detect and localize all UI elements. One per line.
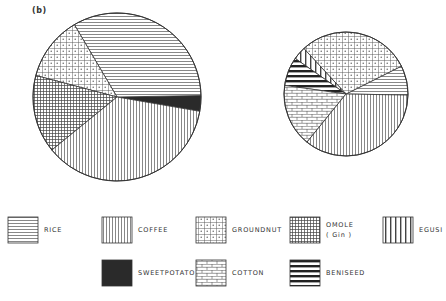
legend-swatch-beniseed xyxy=(290,260,320,286)
panel-label: (b) xyxy=(32,6,47,15)
legend-label-groundnut: GROUNDNUT xyxy=(232,225,282,235)
legend-label-rice: RICE xyxy=(44,225,62,235)
pie-chart-small xyxy=(284,32,408,156)
legend-swatch-cotton xyxy=(196,260,226,286)
legend-swatch-groundnut xyxy=(196,217,226,243)
legend-label-egusi: EGUSI xyxy=(419,225,443,235)
legend-label-cotton: COTTON xyxy=(232,268,264,278)
legend-label-sweetpotato: SWEETPOTATO xyxy=(138,268,195,278)
legend-label-omole-gin: OMOLE ( Gin ) xyxy=(326,220,354,240)
pie-figure xyxy=(0,0,446,301)
legend-swatch-coffee xyxy=(102,217,132,243)
legend-swatch-rice xyxy=(8,217,38,243)
legend-label-coffee: COFFEE xyxy=(138,225,168,235)
legend-swatch-omole-gin xyxy=(290,217,320,243)
legend-swatch-sweetpotato xyxy=(102,260,132,286)
pie-chart-large xyxy=(33,13,201,181)
legend-label-beniseed: BENISEED xyxy=(326,268,365,278)
legend-swatch-egusi xyxy=(383,217,413,243)
